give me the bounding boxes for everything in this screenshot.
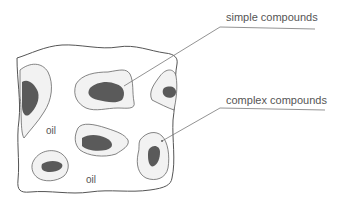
particle-core-right	[163, 87, 176, 98]
leader-dot-complex	[161, 140, 163, 142]
label-simple-compounds: simple compounds	[226, 11, 318, 23]
label-underline-complex	[220, 108, 325, 110]
label-oil-upper: oil	[46, 125, 56, 136]
label-complex-compounds: complex compounds	[226, 94, 327, 106]
label-oil-lower: oil	[86, 174, 96, 185]
oil-compounds-diagram: simple compounds complex compounds oil o…	[0, 0, 340, 206]
label-underline-simple	[220, 27, 315, 29]
